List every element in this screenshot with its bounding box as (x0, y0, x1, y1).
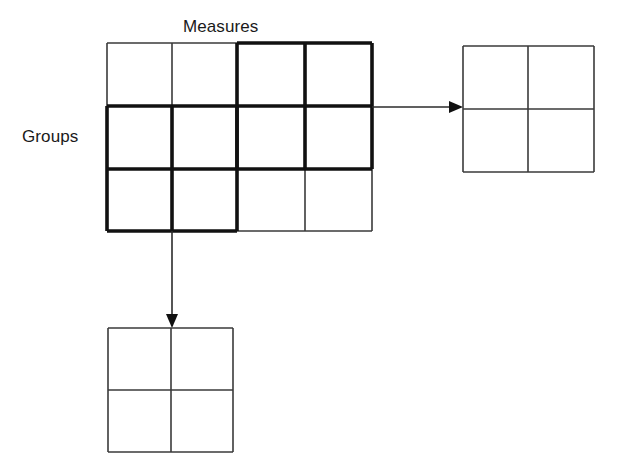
main-grid-thin-lines (107, 43, 372, 231)
bottom-grid (108, 328, 233, 452)
grid-diagram-svg (0, 0, 630, 475)
main-grid-bold-hlines (107, 106, 372, 169)
diagram-canvas: Measures Groups (0, 0, 630, 475)
arrow-right-head (449, 101, 463, 113)
arrow-right (372, 101, 463, 113)
arrow-down (166, 231, 178, 328)
arrow-down-head (166, 314, 178, 328)
right-grid (463, 46, 594, 172)
